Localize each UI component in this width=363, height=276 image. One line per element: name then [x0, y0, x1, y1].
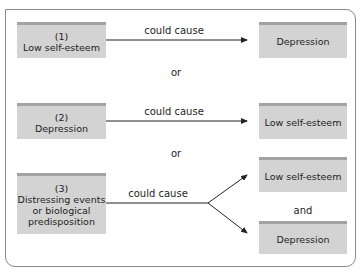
- cause-box-3: (3) Distressing events or biological pre…: [17, 173, 106, 234]
- relation-label-3: could cause: [128, 188, 188, 199]
- effect-label: Depression: [276, 36, 329, 47]
- effects-joiner-and: and: [294, 205, 313, 216]
- relation-label-2: could cause: [144, 106, 204, 117]
- separator-or-1: or: [171, 67, 181, 78]
- cause-box-2: (2) Depression: [17, 103, 106, 139]
- effect-label: Low self-esteem: [265, 171, 342, 182]
- effect-label: Depression: [276, 234, 329, 245]
- effect-box-1: Depression: [259, 22, 347, 58]
- cause-label: Depression: [35, 123, 88, 134]
- separator-or-2: or: [171, 148, 181, 159]
- scenario-number: (1): [55, 31, 68, 42]
- scenario-number: (3): [55, 183, 68, 194]
- effect-box-2: Low self-esteem: [259, 103, 347, 139]
- scenario-number: (2): [55, 112, 68, 123]
- arrow-3-down: [208, 203, 247, 233]
- effect-label: Low self-esteem: [265, 117, 342, 128]
- cause-label-line-1: Distressing events: [18, 194, 106, 205]
- relation-label-1: could cause: [144, 25, 204, 36]
- cause-label: Low self-esteem: [23, 42, 100, 53]
- cause-label-line-2: or biological: [32, 205, 90, 216]
- effect-box-3a: Low self-esteem: [259, 157, 347, 192]
- cause-label-line-3: predisposition: [28, 216, 95, 227]
- effect-box-3b: Depression: [259, 221, 347, 254]
- arrow-3-up: [208, 175, 247, 203]
- cause-box-1: (1) Low self-esteem: [17, 22, 106, 58]
